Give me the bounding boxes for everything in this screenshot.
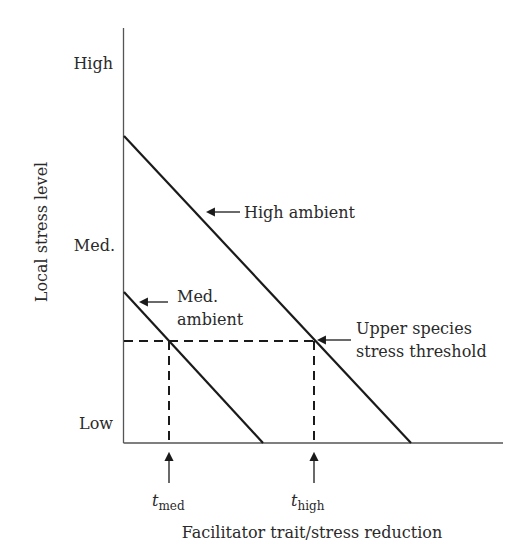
y-tick-low: Low	[79, 414, 113, 433]
med-ambient-label-line2: ambient	[177, 310, 244, 329]
y-axis-label: Local stress level	[32, 162, 51, 302]
y-tick-med: Med.	[74, 236, 115, 255]
high-ambient-line	[124, 136, 411, 443]
med-ambient-label-line1: Med.	[177, 287, 218, 306]
t-high-label: thigh	[291, 491, 325, 513]
stress-facilitation-diagram: High Med. Low Local stress level High am…	[0, 0, 526, 544]
threshold-label-line2: stress threshold	[356, 342, 487, 361]
t-med-label: tmed	[152, 491, 185, 513]
high-ambient-label: High ambient	[244, 203, 356, 222]
x-axis-label: Facilitator trait/stress reduction	[182, 523, 443, 542]
threshold-label-line1: Upper species	[356, 319, 472, 338]
y-tick-high: High	[73, 54, 113, 73]
